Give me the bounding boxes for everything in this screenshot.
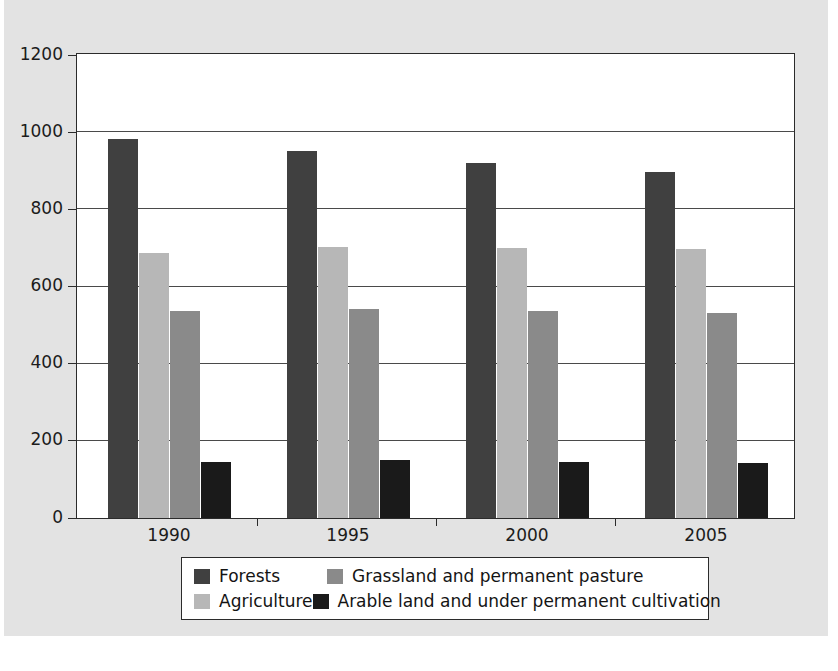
legend-swatch-agriculture xyxy=(194,594,210,609)
x-axis-tick-mark xyxy=(257,519,258,526)
chart-figure: 120010008006004002000 1990199520002005 F… xyxy=(0,0,838,671)
x-axis-tick-label: 1995 xyxy=(308,527,388,544)
legend-swatch-forests xyxy=(194,569,210,584)
bar xyxy=(645,172,675,517)
bar xyxy=(108,139,138,517)
x-axis-tick-label: 1990 xyxy=(129,527,209,544)
legend-row: Agriculture Arable land and under perman… xyxy=(194,589,698,614)
y-axis-tick-label: 600 xyxy=(31,277,63,294)
legend-label-forests: Forests xyxy=(219,568,280,585)
legend-label-grassland: Grassland and permanent pasture xyxy=(352,568,643,585)
x-axis-tick-mark xyxy=(615,519,616,526)
y-axis-tick-mark xyxy=(68,440,76,441)
legend-swatch-grassland xyxy=(327,569,343,584)
legend-entry-grassland: Grassland and permanent pasture xyxy=(327,568,643,585)
bar xyxy=(139,253,169,517)
legend-row: Forests Grassland and permanent pasture xyxy=(194,564,698,589)
y-axis-tick-mark xyxy=(68,286,76,287)
bars-layer xyxy=(78,55,794,518)
y-axis-tick-label: 800 xyxy=(31,200,63,217)
legend-entry-agriculture: Agriculture xyxy=(194,593,313,610)
y-axis-labels: 120010008006004002000 xyxy=(0,0,63,671)
y-axis-tick-mark xyxy=(68,132,76,133)
bar xyxy=(287,151,317,518)
y-axis-tick-label: 200 xyxy=(31,431,63,448)
x-axis-tick-label: 2005 xyxy=(666,527,746,544)
bar xyxy=(559,462,589,518)
y-axis-tick-label: 1000 xyxy=(20,123,63,140)
y-axis-tick-mark xyxy=(68,518,76,519)
x-axis-tick-mark xyxy=(436,519,437,526)
bar xyxy=(528,311,558,517)
bar xyxy=(201,462,231,518)
bar xyxy=(497,248,527,517)
bar xyxy=(707,313,737,517)
y-axis-tick-mark xyxy=(68,209,76,210)
y-axis-tick-mark xyxy=(68,363,76,364)
legend-entry-forests: Forests xyxy=(194,568,327,585)
bar xyxy=(738,463,768,517)
chart-legend: Forests Grassland and permanent pasture … xyxy=(181,557,709,620)
y-axis-tick-label: 0 xyxy=(52,509,63,526)
x-axis-tick-label: 2000 xyxy=(487,527,567,544)
y-axis-tick-label: 400 xyxy=(31,354,63,371)
legend-label-agriculture: Agriculture xyxy=(219,593,313,610)
y-axis-tick-label: 1200 xyxy=(20,46,63,63)
bar xyxy=(380,460,410,518)
legend-swatch-arable xyxy=(313,594,329,609)
bar xyxy=(170,311,200,517)
bar xyxy=(676,249,706,517)
bar xyxy=(349,309,379,517)
legend-label-arable: Arable land and under permanent cultivat… xyxy=(338,593,721,610)
bar xyxy=(466,163,496,518)
legend-entry-arable: Arable land and under permanent cultivat… xyxy=(313,593,721,610)
y-axis-tick-mark xyxy=(68,55,76,56)
bar xyxy=(318,247,348,517)
